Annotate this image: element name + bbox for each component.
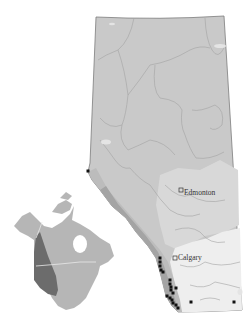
occurrence-point <box>233 301 236 304</box>
occurrence-point <box>159 261 162 264</box>
occurrence-point <box>162 271 165 274</box>
occurrence-point <box>175 287 178 290</box>
occurrence-point <box>170 289 173 292</box>
inset-hudson-bay <box>73 235 87 253</box>
inset-north-america <box>14 192 114 310</box>
occurrence-point <box>169 283 172 286</box>
occurrence-point <box>159 257 162 260</box>
occurrence-point <box>159 265 162 268</box>
occurrence-point <box>175 304 178 307</box>
occurrence-point <box>169 279 172 282</box>
occurrence-point <box>166 295 169 298</box>
occurrence-point <box>171 299 174 302</box>
occurrence-point <box>172 302 175 305</box>
edmonton-label: Edmonton <box>184 188 215 197</box>
inset-land <box>14 206 114 310</box>
occurrence-point <box>177 307 180 310</box>
inset-arctic-islands <box>52 192 72 214</box>
calgary-label: Calgary <box>178 253 202 262</box>
occurrence-point <box>170 286 173 289</box>
occurrence-point <box>190 301 193 304</box>
occurrence-point <box>87 170 90 173</box>
occurrence-point <box>172 292 175 295</box>
alberta-map <box>0 0 251 326</box>
